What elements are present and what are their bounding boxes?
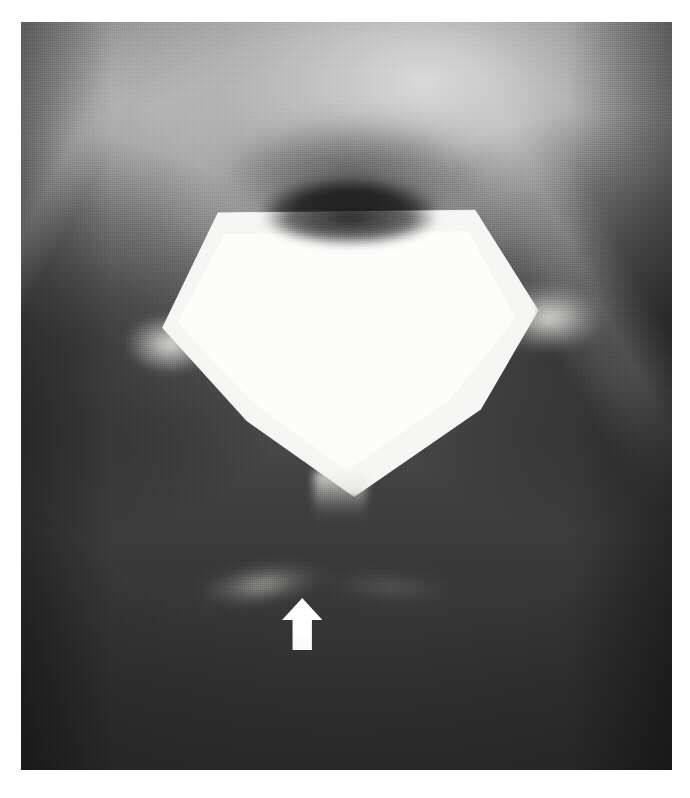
superior-concave-notch	[262, 190, 438, 246]
radiograph-image	[21, 22, 672, 770]
figure-root	[0, 0, 690, 798]
central-contrast-core	[177, 224, 516, 471]
inferior-beak	[314, 471, 366, 523]
up-arrow-icon	[282, 598, 322, 650]
figure-caption	[22, 778, 662, 798]
indicated-streak-secondary	[313, 567, 464, 607]
